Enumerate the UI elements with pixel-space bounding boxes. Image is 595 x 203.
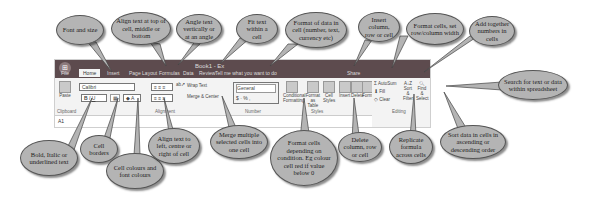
callout-conditional: Format cells depending on condition. Eg … xyxy=(270,130,338,186)
callout-angle-text: Angle text vertically or at an angle xyxy=(176,14,222,44)
callout-fill: Replicate formula across cells xyxy=(389,130,433,164)
callout-align-vertical: Align text at top of cell, middle or bot… xyxy=(111,12,171,45)
callout-number-format: Format of data in cell (number, text, cu… xyxy=(285,12,347,48)
callout-delete: Delete column, row or cell xyxy=(338,132,382,162)
callout-insert: Insert column, row or cell xyxy=(358,12,400,42)
callout-format-cells: Format cells, set row/column width xyxy=(406,13,464,45)
callout-find: Search for text or data within spreadshe… xyxy=(498,70,568,100)
callout-autosum: Add together numbers in cells xyxy=(469,16,515,46)
callout-font-size: Font and size xyxy=(56,15,104,45)
callout-align-horizontal: Align text to left, centre or right of c… xyxy=(148,128,200,164)
callout-merge: Merge multiple selected cells into one c… xyxy=(210,125,268,159)
callout-sort: Sort data in cells in ascending or desce… xyxy=(440,125,506,159)
callout-bold: Bold, Italic or underlined text xyxy=(20,140,78,176)
callout-fit-text: Fit text within a cell xyxy=(236,14,278,44)
